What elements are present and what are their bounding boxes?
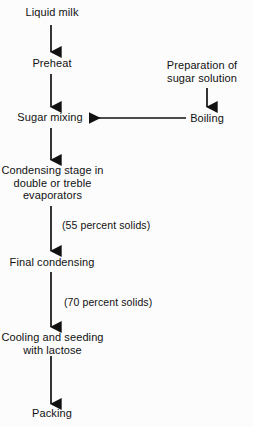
edge-label-70-percent-solids: (70 percent solids): [64, 296, 152, 308]
node-boiling: Boiling: [155, 112, 254, 125]
edge-label-55-percent-solids: (55 percent solids): [62, 219, 150, 231]
flowchart-diagram: Liquid milk Preheat Preparation of sugar…: [0, 0, 254, 427]
node-preheat-line-1: Preheat: [0, 57, 104, 70]
node-liquid-milk: Liquid milk: [0, 6, 104, 19]
node-condensing-stage: Condensing stage in double or treble eva…: [0, 164, 105, 202]
node-sugar-mixing-line-1: Sugar mixing: [0, 111, 100, 124]
node-sugar-mixing: Sugar mixing: [0, 111, 100, 124]
node-cooling-and-seeding: Cooling and seeding with lactose: [0, 331, 105, 356]
node-condensing-stage-line-2: double or treble: [0, 177, 105, 190]
node-prep-sugar-line-2: sugar solution: [150, 72, 254, 85]
node-packing: Packing: [0, 407, 104, 420]
node-prep-sugar-line-1: Preparation of: [150, 59, 254, 72]
node-packing-line-1: Packing: [0, 407, 104, 420]
node-final-condensing: Final condensing: [0, 256, 104, 269]
node-boiling-line-1: Boiling: [155, 112, 254, 125]
node-preparation-of-sugar-solution: Preparation of sugar solution: [150, 59, 254, 84]
node-condensing-stage-line-3: evaporators: [0, 189, 105, 202]
node-final-condensing-line-1: Final condensing: [0, 256, 104, 269]
node-cooling-seeding-line-2: with lactose: [0, 344, 105, 357]
node-preheat: Preheat: [0, 57, 104, 70]
node-cooling-seeding-line-1: Cooling and seeding: [0, 331, 105, 344]
node-condensing-stage-line-1: Condensing stage in: [0, 164, 105, 177]
node-liquid-milk-line-1: Liquid milk: [0, 6, 104, 19]
